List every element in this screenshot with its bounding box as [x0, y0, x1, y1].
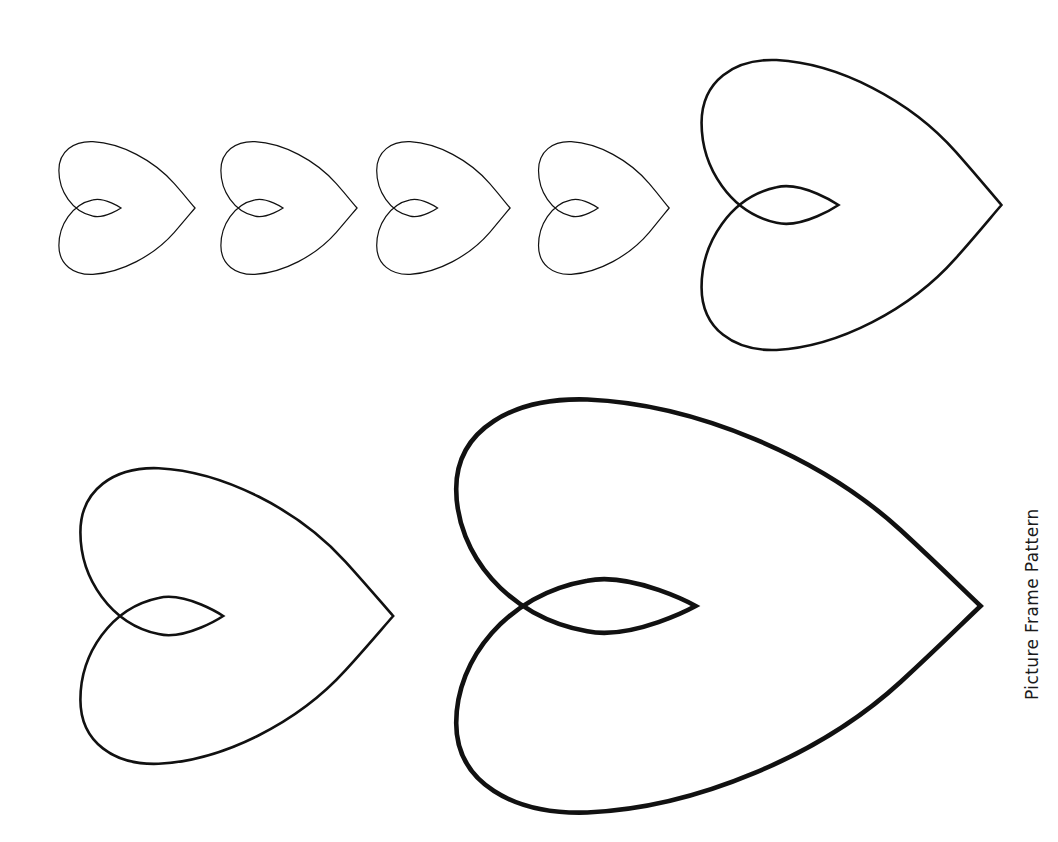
heart-shapes-layer: [0, 0, 1058, 842]
heart-outline-icon: [59, 142, 195, 275]
pattern-page: Picture Frame Pattern: [0, 0, 1058, 842]
heart-outline-icon: [221, 142, 357, 275]
heart-small-4[interactable]: [530, 138, 672, 278]
heart-outline-icon: [539, 142, 670, 275]
heart-medium-top-right[interactable]: [682, 52, 1008, 358]
heart-large[interactable]: [422, 388, 992, 824]
heart-outline-icon: [80, 468, 393, 764]
heart-outline-icon: [456, 399, 980, 812]
heart-medium-bottom-left[interactable]: [60, 460, 400, 772]
heart-small-3[interactable]: [368, 138, 513, 278]
pattern-caption: Picture Frame Pattern: [1022, 508, 1042, 700]
heart-outline-icon: [377, 142, 510, 275]
heart-small-2[interactable]: [212, 138, 360, 278]
heart-small-1[interactable]: [50, 138, 198, 278]
heart-outline-icon: [702, 60, 1002, 350]
